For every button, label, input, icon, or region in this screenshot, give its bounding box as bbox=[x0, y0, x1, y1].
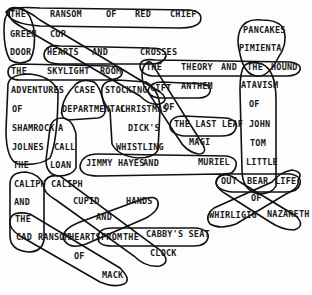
puzzle-word: JIMMY HAYES bbox=[86, 158, 145, 168]
puzzle-word: THE bbox=[146, 62, 162, 72]
puzzle-word: PANCAKES bbox=[243, 25, 286, 35]
puzzle-word: OF bbox=[106, 9, 117, 19]
puzzle-word: CHIEF bbox=[170, 9, 197, 19]
puzzle-word: AND bbox=[221, 62, 237, 72]
puzzle-word: MAGI bbox=[189, 137, 210, 147]
puzzle-word: THE bbox=[13, 160, 29, 170]
puzzle-word: ATAVISM bbox=[241, 80, 278, 90]
puzzle-word: AND bbox=[143, 158, 159, 168]
puzzle-word: COP bbox=[50, 29, 66, 39]
puzzle-word: SHAMROCK bbox=[12, 123, 55, 133]
puzzle-word: DOOR bbox=[10, 47, 31, 57]
puzzle-word: AND bbox=[92, 47, 108, 57]
puzzle-word: CROSSES bbox=[140, 47, 177, 57]
puzzle-word: BEAR bbox=[247, 176, 268, 186]
puzzle-word: THE bbox=[247, 62, 263, 72]
puzzle-word: CLOCK bbox=[150, 248, 177, 258]
puzzle-word: A bbox=[58, 123, 63, 133]
puzzle-word: JOLNES bbox=[12, 142, 44, 152]
puzzle-word: OUT bbox=[221, 176, 237, 186]
puzzle-word: AND bbox=[96, 212, 112, 222]
puzzle-word: CALIPH bbox=[14, 179, 46, 189]
puzzle-word: THE bbox=[10, 9, 26, 19]
puzzle-word: CALIPH bbox=[51, 179, 83, 189]
puzzle-word: LOAN bbox=[50, 160, 71, 170]
puzzle-word: HOUND bbox=[271, 62, 298, 72]
puzzle-word: FROM bbox=[101, 232, 122, 242]
puzzle-word: WHISTLING bbox=[116, 142, 164, 152]
puzzle-word: CASE bbox=[74, 85, 95, 95]
puzzle-word: TOM bbox=[250, 138, 266, 148]
puzzle-word: GREEN bbox=[10, 29, 37, 39]
puzzle-word: HEARTS bbox=[69, 232, 101, 242]
word-loop-puzzle: THERANSOMOFREDCHIEFGREENCOPDOORHEARTSAND… bbox=[0, 0, 312, 295]
puzzle-word: PIMIENTA bbox=[239, 43, 282, 53]
puzzle-word: JOHN bbox=[249, 119, 270, 129]
puzzle-word: GIFT bbox=[150, 83, 171, 93]
puzzle-word: CUPID bbox=[73, 196, 100, 206]
puzzle-word: LITTLE bbox=[246, 157, 278, 167]
puzzle-word: WHIRLIGIG bbox=[209, 210, 257, 220]
puzzle-word: RANSOM bbox=[38, 232, 70, 242]
puzzle-word: SKYLIGHT bbox=[47, 66, 90, 76]
puzzle-word: DICK'S bbox=[128, 123, 160, 133]
puzzle-word: OF bbox=[164, 102, 175, 112]
puzzle-word: THE LAST LEAF bbox=[174, 119, 243, 129]
puzzle-word: OF bbox=[251, 193, 262, 203]
puzzle-word: NAZARETH bbox=[267, 209, 310, 219]
puzzle-word: THEORY bbox=[181, 62, 213, 72]
puzzle-word: THE bbox=[15, 214, 31, 224]
puzzle-word: MACK bbox=[102, 270, 123, 280]
puzzle-word: RED bbox=[135, 9, 151, 19]
puzzle-word: STOCKING bbox=[105, 85, 148, 95]
puzzle-word: MURIEL bbox=[198, 157, 230, 167]
puzzle-word: CHRISTMAS bbox=[120, 104, 168, 114]
puzzle-word: CALL bbox=[54, 142, 75, 152]
puzzle-word: AND bbox=[14, 197, 30, 207]
puzzle-word: THE bbox=[123, 232, 139, 242]
puzzle-word: OF bbox=[74, 251, 85, 261]
puzzle-word: ADVENTURES bbox=[11, 85, 64, 95]
puzzle-word: THE bbox=[11, 66, 27, 76]
puzzle-word: CABBY'S SEAT bbox=[146, 229, 210, 239]
puzzle-word: DEPARTMENTAL bbox=[62, 104, 126, 114]
puzzle-word: OF bbox=[12, 104, 23, 114]
puzzle-word: ANTHEM bbox=[181, 81, 213, 91]
puzzle-word: HANDS bbox=[126, 196, 153, 206]
puzzle-word: LIFE bbox=[275, 176, 296, 186]
puzzle-word: OF bbox=[249, 99, 260, 109]
puzzle-word: CAD bbox=[16, 232, 32, 242]
puzzle-word: ROOM bbox=[100, 66, 121, 76]
puzzle-word: RANSOM bbox=[50, 9, 82, 19]
puzzle-word: HEARTS bbox=[47, 47, 79, 57]
